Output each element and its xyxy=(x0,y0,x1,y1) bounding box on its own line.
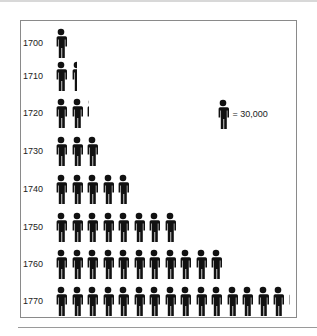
person-icon xyxy=(101,212,117,242)
person-icon xyxy=(240,286,256,316)
year-label: 1770 xyxy=(23,283,43,319)
legend: = 30,000 xyxy=(216,99,268,129)
figure-group xyxy=(54,25,70,61)
person-icon xyxy=(54,136,70,166)
pictograph-row: 1760 xyxy=(21,246,296,282)
person-icon xyxy=(116,212,132,242)
person-icon xyxy=(54,286,70,316)
figure-group xyxy=(54,209,178,245)
year-label: 1730 xyxy=(23,133,43,169)
person-icon xyxy=(54,28,70,58)
person-icon xyxy=(163,212,179,242)
person-icon xyxy=(116,249,132,279)
figure-group xyxy=(54,58,77,94)
person-icon xyxy=(101,249,117,279)
person-icon xyxy=(70,61,78,91)
year-label: 1720 xyxy=(23,95,43,131)
figure-group xyxy=(54,171,132,207)
person-icon xyxy=(54,61,70,91)
person-icon xyxy=(85,249,101,279)
person-icon xyxy=(70,286,86,316)
year-label: 1700 xyxy=(23,25,43,61)
person-icon xyxy=(54,212,70,242)
person-icon xyxy=(70,136,86,166)
person-icon xyxy=(54,249,70,279)
pictograph-row: 1710 xyxy=(21,58,296,94)
top-rule xyxy=(0,0,317,2)
person-icon xyxy=(54,174,70,204)
year-label: 1760 xyxy=(23,246,43,282)
person-icon xyxy=(209,249,225,279)
person-icon xyxy=(178,286,194,316)
pictograph-row: 1750 xyxy=(21,209,296,245)
year-label: 1740 xyxy=(23,171,43,207)
person-icon xyxy=(132,249,148,279)
person-icon xyxy=(132,212,148,242)
person-icon xyxy=(85,174,101,204)
person-icon xyxy=(85,98,89,128)
person-icon xyxy=(101,286,117,316)
person-icon xyxy=(163,249,179,279)
person-icon xyxy=(178,249,194,279)
bottom-rule xyxy=(18,327,317,328)
person-icon xyxy=(54,98,70,128)
person-icon xyxy=(70,98,86,128)
person-icon xyxy=(194,286,210,316)
person-icon xyxy=(147,249,163,279)
person-icon xyxy=(70,174,86,204)
person-icon xyxy=(101,174,117,204)
person-icon xyxy=(85,286,101,316)
person-icon xyxy=(147,212,163,242)
pictograph-row: 1730 xyxy=(21,133,296,169)
year-label: 1710 xyxy=(23,58,43,94)
figure-group xyxy=(54,246,225,282)
person-icon xyxy=(216,99,232,129)
person-icon xyxy=(209,286,225,316)
person-icon xyxy=(147,286,163,316)
person-icon xyxy=(271,286,287,316)
figure-group xyxy=(54,133,101,169)
person-icon xyxy=(85,136,101,166)
person-icon xyxy=(287,286,290,316)
figure-group xyxy=(54,95,89,131)
figure-group xyxy=(54,283,290,319)
pictograph-row: 1740 xyxy=(21,171,296,207)
year-label: 1750 xyxy=(23,209,43,245)
person-icon xyxy=(256,286,272,316)
person-icon xyxy=(163,286,179,316)
person-icon xyxy=(225,286,241,316)
pictograph-row: 1770 xyxy=(21,283,296,319)
person-icon xyxy=(70,212,86,242)
person-icon xyxy=(132,286,148,316)
person-icon xyxy=(116,286,132,316)
legend-label: = 30,000 xyxy=(233,109,268,119)
person-icon xyxy=(116,174,132,204)
person-icon xyxy=(85,212,101,242)
person-icon xyxy=(194,249,210,279)
person-icon xyxy=(70,249,86,279)
pictograph-row: 1700 xyxy=(21,25,296,61)
